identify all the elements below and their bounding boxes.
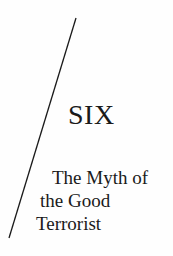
chapter-title-line-1: The Myth of	[52, 168, 148, 187]
chapter-title-page: SIX The Myth of the Good Terrorist	[0, 0, 173, 256]
chapter-number: SIX	[68, 101, 115, 129]
chapter-title-line-2: the Good	[40, 191, 110, 210]
chapter-title-line-3: Terrorist	[36, 214, 101, 233]
